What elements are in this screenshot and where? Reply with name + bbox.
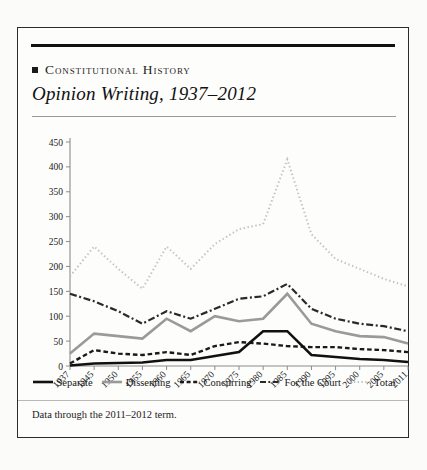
- series-line-total: [70, 159, 408, 288]
- legend-swatch-dashdot: [260, 378, 280, 386]
- kicker-label: Constitutional History: [45, 62, 191, 78]
- page-background: Constitutional History Opinion Writing, …: [0, 0, 427, 470]
- series-line-for-the-court: [70, 284, 408, 331]
- footnote-rule: [18, 400, 408, 401]
- line-chart: 0501001502002503003504004501937194519501…: [18, 124, 410, 389]
- legend-item-for-the-court: For the Court: [260, 377, 341, 388]
- y-tick-label: 200: [49, 262, 64, 272]
- legend-label: Concurring: [204, 377, 252, 388]
- legend-swatch-solid: [33, 378, 53, 386]
- legend-item-concurring: Concurring: [180, 377, 252, 388]
- y-tick-label: 50: [54, 337, 64, 347]
- top-rule: [31, 44, 395, 47]
- legend-swatch-dotted: [350, 378, 370, 386]
- legend-label: Dissenting: [126, 377, 171, 388]
- title-rule: [32, 116, 396, 117]
- y-tick-label: 350: [49, 187, 64, 197]
- square-bullet-icon: [32, 67, 38, 73]
- page-title: Opinion Writing, 1937–2012: [32, 83, 394, 105]
- legend-item-total: Total: [350, 377, 395, 388]
- legend-label: Separate: [57, 377, 93, 388]
- footnote-text: Data through the 2011–2012 term.: [32, 409, 392, 420]
- chart-legend: SeparateDissentingConcurringFor the Cour…: [28, 373, 400, 391]
- figure-card: Constitutional History Opinion Writing, …: [17, 27, 409, 438]
- y-tick-label: 450: [49, 138, 64, 148]
- legend-item-dissenting: Dissenting: [102, 377, 171, 388]
- legend-label: For the Court: [284, 377, 341, 388]
- y-tick-label: 150: [49, 287, 64, 297]
- y-tick-label: 100: [49, 312, 64, 322]
- y-tick-label: 400: [49, 162, 64, 172]
- y-tick-label: 300: [49, 212, 64, 222]
- legend-swatch-dashed: [180, 378, 200, 386]
- legend-swatch-solid: [102, 378, 122, 386]
- legend-label: Total: [374, 377, 395, 388]
- section-kicker: Constitutional History: [32, 60, 392, 80]
- y-tick-label: 250: [49, 237, 64, 247]
- chart-svg: 0501001502002503003504004501937194519501…: [18, 124, 410, 389]
- legend-item-separate: Separate: [33, 377, 93, 388]
